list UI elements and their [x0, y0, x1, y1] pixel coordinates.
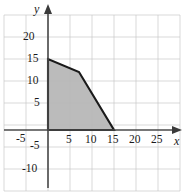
y-tick-neg5: -5 [30, 140, 40, 152]
x-tick-20: 20 [129, 134, 141, 146]
y-tick-10: 10 [27, 75, 39, 87]
x-tick-10: 10 [85, 134, 97, 146]
y-tick-5: 5 [34, 97, 40, 109]
x-tick-5: 5 [66, 134, 72, 146]
shaded-region [48, 59, 114, 130]
graph-figure: y x 20 15 10 5 -5 -10 -5 5 10 15 20 25 [0, 0, 189, 196]
y-tick-15: 15 [27, 53, 39, 65]
y-tick-20: 20 [23, 31, 35, 43]
y-tick-neg10: -10 [22, 163, 37, 175]
x-tick-neg5: -5 [16, 133, 26, 145]
x-tick-25: 25 [151, 134, 163, 146]
x-axis-label: x [174, 135, 179, 147]
x-tick-15: 15 [107, 134, 119, 146]
y-axis-label: y [34, 3, 39, 15]
